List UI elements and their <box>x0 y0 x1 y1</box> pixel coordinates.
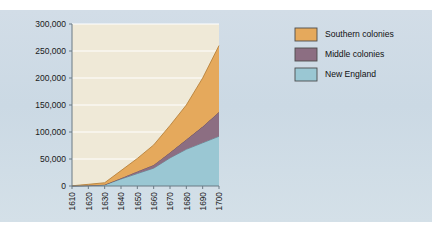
y-tick-label: 50,000 <box>40 154 66 164</box>
y-tick-label: 100,000 <box>35 127 66 137</box>
x-tick-label: 1660 <box>149 192 159 211</box>
y-tick-label: 0 <box>61 181 66 191</box>
y-tick-label: 200,000 <box>35 73 66 83</box>
legend-label-southern-colonies: Southern colonies <box>325 29 394 39</box>
x-tick-label: 1630 <box>100 192 110 211</box>
legend-swatch-southern-colonies <box>295 28 317 41</box>
x-tick-label: 1690 <box>198 192 208 211</box>
chart-legend: Southern coloniesMiddle coloniesNew Engl… <box>295 28 394 81</box>
x-tick-label: 1620 <box>84 192 94 211</box>
y-tick-label: 300,000 <box>35 19 66 29</box>
legend-swatch-new-england <box>295 68 317 81</box>
x-tick-label: 1650 <box>133 192 143 211</box>
x-tick-label: 1700 <box>214 192 224 211</box>
stacked-area-chart: 050,000100,000150,000200,000250,000300,0… <box>0 10 432 222</box>
x-tick-label: 1640 <box>116 192 126 211</box>
legend-label-new-england: New England <box>325 69 376 79</box>
y-tick-label: 250,000 <box>35 46 66 56</box>
x-axis-tick-labels: 1610162016301640165016601670168016901700 <box>67 192 224 211</box>
x-tick-label: 1680 <box>182 192 192 211</box>
chart-figure: 050,000100,000150,000200,000250,000300,0… <box>0 10 432 222</box>
legend-swatch-middle-colonies <box>295 48 317 61</box>
y-axis-tick-labels: 050,000100,000150,000200,000250,000300,0… <box>35 19 66 191</box>
legend-label-middle-colonies: Middle colonies <box>325 49 384 59</box>
x-tick-label: 1610 <box>67 192 77 211</box>
y-tick-label: 150,000 <box>35 100 66 110</box>
x-tick-label: 1670 <box>165 192 175 211</box>
